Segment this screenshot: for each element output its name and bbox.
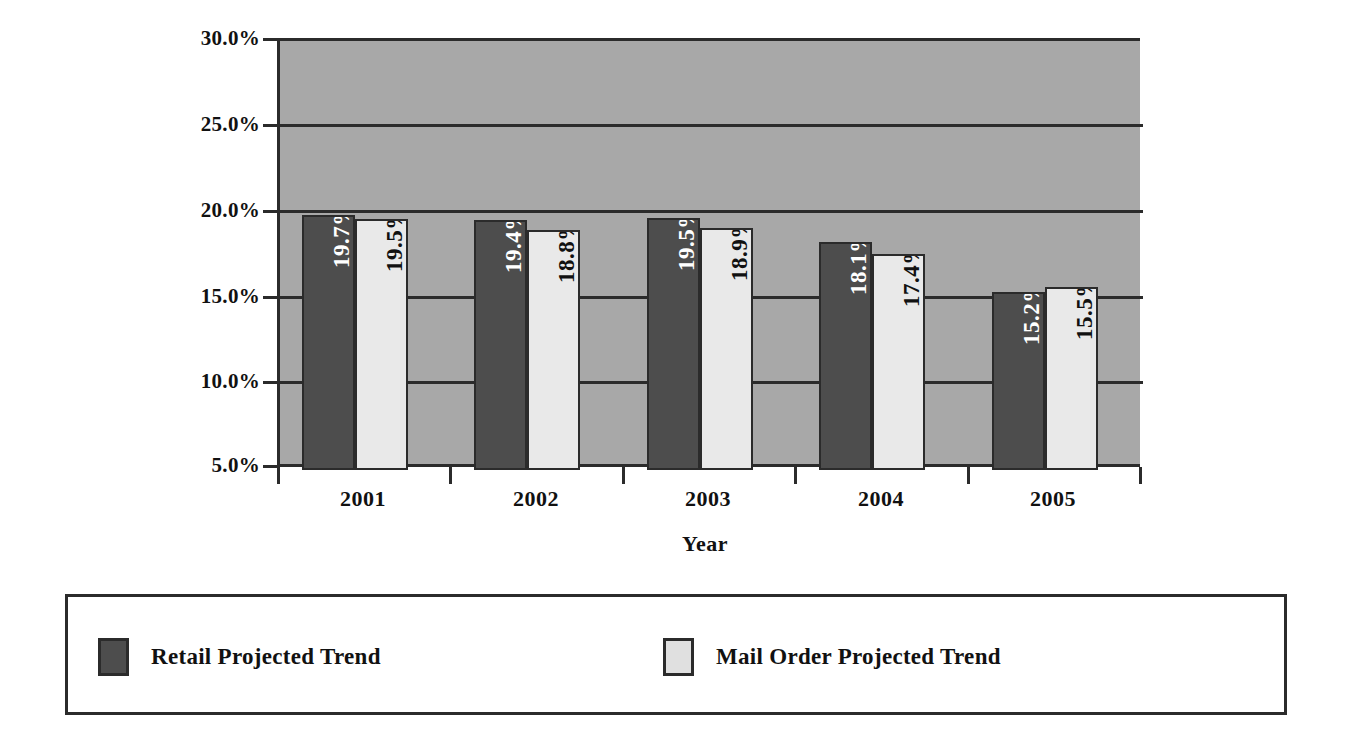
bar-mail-2001[interactable]: 19.5% (355, 219, 408, 470)
bar-label-retail-2002: 19.4% (501, 220, 527, 273)
chart-legend: Retail Projected Trend Mail Order Projec… (65, 594, 1287, 715)
x-axis-label-2001: 2001 (283, 486, 443, 512)
bar-label-mail-2002: 18.8% (554, 230, 580, 283)
x-tick-start (277, 467, 280, 484)
x-axis-label-2005: 2005 (973, 486, 1133, 512)
legend-item-retail[interactable]: Retail Projected Trend (98, 638, 381, 676)
y-axis-label-25: 25.0% (130, 112, 260, 137)
bar-mail-2002[interactable]: 18.8% (527, 230, 580, 470)
bar-label-mail-2004: 17.4% (899, 254, 925, 307)
x-tick-end (1139, 467, 1142, 484)
x-tick-4 (967, 467, 970, 484)
y-axis-label-30: 30.0% (130, 26, 260, 51)
bar-mail-2004[interactable]: 17.4% (872, 254, 925, 470)
x-axis-title: Year (0, 531, 1349, 557)
legend-swatch-retail-icon (98, 638, 129, 676)
plot-area: 19.7% 19.5% 19.4% 18.8% 19.5% 18.9% 18.1… (277, 38, 1140, 467)
y-axis-labels: 30.0% 25.0% 20.0% 15.0% 10.0% 5.0% (120, 0, 260, 500)
bar-label-mail-2001: 19.5% (382, 219, 408, 272)
bar-retail-2002[interactable]: 19.4% (474, 220, 527, 470)
bar-label-retail-2004: 18.1% (846, 242, 872, 295)
bar-mail-2005[interactable]: 15.5% (1045, 287, 1098, 470)
bar-chart-figure: 30.0% 25.0% 20.0% 15.0% 10.0% 5.0% 19.7%… (0, 0, 1349, 751)
x-axis-label-2002: 2002 (456, 486, 616, 512)
gridline-20 (280, 210, 1143, 213)
x-tick-1 (449, 467, 452, 484)
bar-label-retail-2003: 19.5% (674, 218, 700, 271)
bar-retail-2004[interactable]: 18.1% (819, 242, 872, 470)
bar-label-mail-2003: 18.9% (727, 228, 753, 281)
legend-label-mail-order: Mail Order Projected Trend (716, 644, 1001, 670)
x-axis-label-2004: 2004 (801, 486, 961, 512)
bar-label-retail-2001: 19.7% (329, 215, 355, 268)
y-axis-label-5: 5.0% (130, 453, 260, 478)
x-tick-2 (622, 467, 625, 484)
y-axis-label-10: 10.0% (130, 369, 260, 394)
x-axis-label-2003: 2003 (628, 486, 788, 512)
legend-label-retail: Retail Projected Trend (151, 644, 381, 670)
bar-retail-2005[interactable]: 15.2% (992, 292, 1045, 470)
x-tick-3 (794, 467, 797, 484)
bar-retail-2001[interactable]: 19.7% (302, 215, 355, 470)
y-axis-label-20: 20.0% (130, 198, 260, 223)
y-axis-label-15: 15.0% (130, 284, 260, 309)
legend-swatch-mail-order-icon (663, 638, 694, 676)
bar-retail-2003[interactable]: 19.5% (647, 218, 700, 470)
bar-mail-2003[interactable]: 18.9% (700, 228, 753, 470)
bar-label-mail-2005: 15.5% (1072, 287, 1098, 340)
gridline-25 (280, 124, 1143, 127)
bar-label-retail-2005: 15.2% (1019, 292, 1045, 345)
legend-item-mail-order[interactable]: Mail Order Projected Trend (663, 638, 1001, 676)
